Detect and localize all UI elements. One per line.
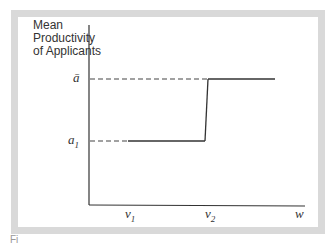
caption-fragment: Fi <box>10 235 18 245</box>
x-axis <box>89 205 305 206</box>
step-jump <box>205 79 208 141</box>
